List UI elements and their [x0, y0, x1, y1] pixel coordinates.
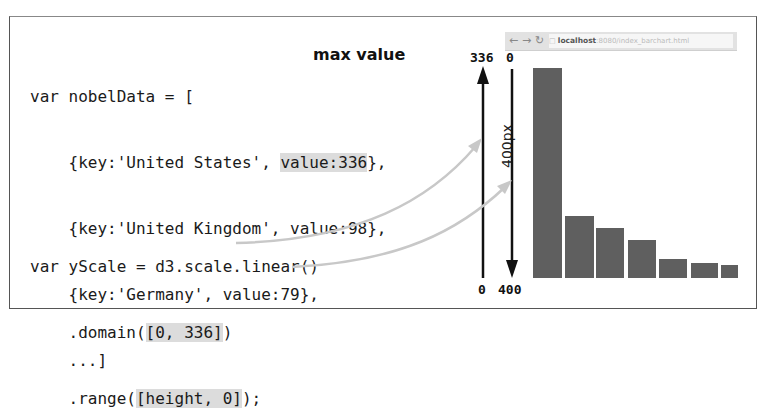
domain-axis-arrow-icon: [477, 66, 489, 278]
code-line: .range([height, 0]);: [30, 388, 319, 410]
range-curve-arrow-icon: [292, 180, 512, 267]
range-axis-arrow-icon: [506, 69, 518, 278]
range-highlight: [height, 0]: [136, 389, 242, 408]
domain-highlight: [0, 336]: [146, 323, 223, 342]
code-line: .domain([0, 336]): [30, 322, 319, 344]
domain-curve-arrow-icon: [236, 138, 482, 243]
